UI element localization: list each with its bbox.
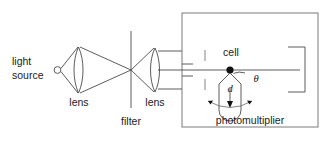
beam-stop xyxy=(288,47,305,92)
diagram-canvas: light source lens lens filter cell θ d p… xyxy=(0,0,329,145)
light-source-label-line1: light xyxy=(12,55,31,67)
distance-label: d xyxy=(227,83,233,94)
photomultiplier-label: photomultiplier xyxy=(216,114,285,126)
lens-first-label: lens xyxy=(69,96,88,108)
distance-arrow-head xyxy=(227,101,233,108)
theta-label: θ xyxy=(253,73,258,84)
rotation-arrowhead-left xyxy=(208,101,213,105)
light-source-icon xyxy=(54,67,61,74)
light-source-label-line2: source xyxy=(12,69,44,81)
ray-lens1-top xyxy=(80,47,131,70)
rotation-arrowhead-right xyxy=(247,101,252,105)
lens-second-label: lens xyxy=(145,96,164,108)
lens-first-icon xyxy=(74,47,83,93)
theta-arc xyxy=(234,72,246,73)
ray-lens1-bottom xyxy=(80,70,131,93)
optics-diagram: light source lens lens filter cell θ d p… xyxy=(0,0,329,145)
cell-label: cell xyxy=(223,46,239,58)
filter-label: filter xyxy=(121,115,141,127)
